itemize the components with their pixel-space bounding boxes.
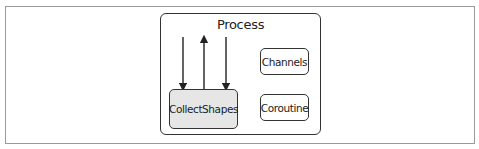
arrows-layer: [0, 0, 479, 149]
node-channels: Channels: [260, 48, 309, 75]
node-coroutine: Coroutine: [260, 94, 309, 121]
node-collect-shapes: CollectShapes: [169, 89, 238, 129]
